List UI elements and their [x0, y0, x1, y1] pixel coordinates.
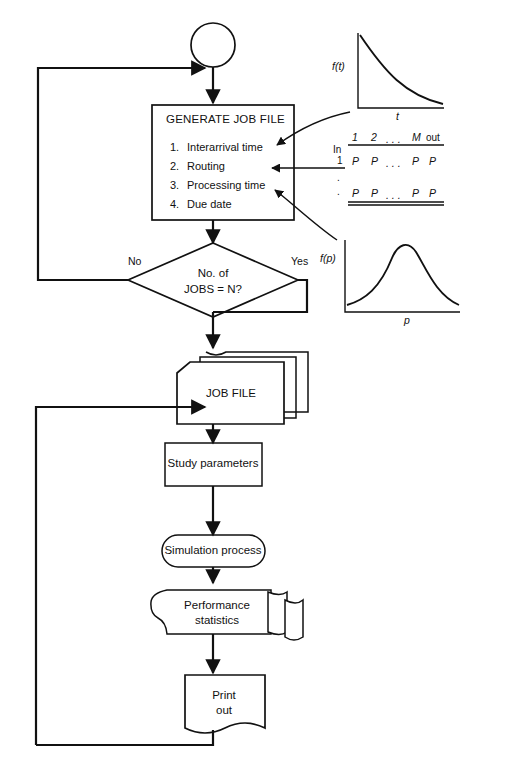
job-item-1-label: Interarrival time — [187, 141, 263, 154]
routing-matrix-col-m: M — [412, 131, 421, 144]
routing-matrix-row-1: 1 — [337, 155, 343, 167]
routing-cell-r2-c2: P — [371, 187, 378, 200]
routing-cell-r1-c1: P — [352, 155, 359, 168]
routing-cell-r2-c1: P — [352, 187, 359, 200]
print-out-label-line2: out — [216, 703, 232, 717]
routing-cell-r1-cout: P — [429, 155, 436, 168]
decision-branch-yes-label: Yes — [291, 255, 308, 268]
routing-cell-r2-cout: P — [429, 187, 436, 200]
routing-matrix-col-1: 1 — [352, 131, 358, 144]
routing-matrix-col-2: 2 — [371, 131, 377, 144]
routing-cell-r1-c2: P — [371, 155, 378, 168]
job-item-3-number: 3. — [170, 179, 179, 192]
routing-cell-r2-cm: P — [412, 187, 419, 200]
simulation-process-label: Simulation process — [164, 543, 261, 557]
performance-statistics-label-line1: Performance — [184, 598, 250, 612]
routing-matrix-col-ellipsis: . . . — [386, 133, 401, 146]
job-item-4-number: 4. — [170, 198, 179, 211]
decision-label-line1: No. of — [198, 266, 229, 280]
routing-matrix-col-out: out — [426, 132, 440, 144]
job-item-2-label: Routing — [187, 160, 225, 173]
routing-cell-r2-ellipsis: . . . — [386, 189, 401, 202]
interarrival-chart-xlabel: t — [396, 110, 399, 123]
performance-statistics-label-line2: statistics — [195, 613, 239, 627]
decision-branch-no-label: No — [128, 255, 141, 268]
routing-matrix-row-dot-1: . — [337, 172, 340, 184]
processing-chart-xlabel: p — [404, 314, 410, 327]
job-item-2-number: 2. — [170, 160, 179, 173]
routing-cell-r1-cm: P — [412, 155, 419, 168]
job-item-1-number: 1. — [170, 141, 179, 154]
job-item-4-label: Due date — [187, 198, 232, 211]
job-item-3-label: Processing time — [187, 179, 265, 192]
routing-matrix-row-dot-2: . — [337, 186, 340, 198]
decision-label-line2: JOBS = N? — [184, 282, 242, 296]
routing-cell-r1-ellipsis: . . . — [386, 157, 401, 170]
job-file-label: JOB FILE — [206, 386, 256, 400]
start-connector-shape — [191, 23, 235, 67]
print-out-label-line1: Print — [212, 688, 236, 702]
study-parameters-label: Study parameters — [168, 456, 259, 470]
generate-job-file-title: GENERATE JOB FILE — [166, 112, 285, 126]
flowchart-canvas: GENERATE JOB FILE 1. Interarrival time 2… — [0, 0, 507, 777]
processing-chart-ylabel: f(p) — [320, 252, 336, 265]
interarrival-chart-ylabel: f(t) — [332, 60, 345, 73]
